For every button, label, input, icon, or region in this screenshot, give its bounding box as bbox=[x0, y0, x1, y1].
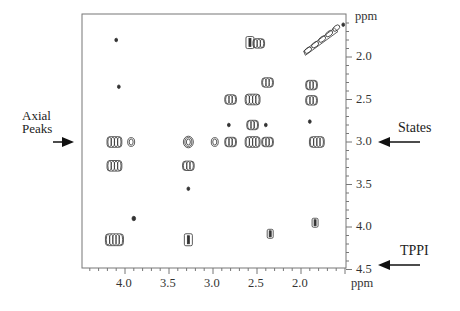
x-tick-label: 3.0 bbox=[204, 276, 220, 291]
x-tick-label: 3.5 bbox=[160, 276, 176, 291]
axis-ticks bbox=[90, 23, 352, 274]
x-tick-label: 4.0 bbox=[116, 276, 132, 291]
nmr-contour-plot bbox=[0, 0, 460, 311]
contour-peak bbox=[245, 94, 260, 105]
y-tick-label: 2.0 bbox=[356, 49, 372, 64]
y-tick-label: 3.0 bbox=[356, 134, 372, 149]
tppi-arrow bbox=[378, 260, 420, 270]
states-arrow bbox=[378, 137, 420, 147]
contour-peaks bbox=[105, 23, 344, 246]
contour-peak bbox=[267, 229, 273, 238]
contour-peak bbox=[245, 137, 260, 148]
contour-peak bbox=[184, 234, 192, 246]
contour-peak bbox=[107, 161, 122, 172]
contour-peak bbox=[187, 187, 190, 191]
axial-peaks-arrow bbox=[53, 137, 74, 147]
contour-peak bbox=[225, 137, 237, 146]
contour-peak bbox=[247, 120, 259, 129]
states-label: States bbox=[398, 121, 431, 135]
contour-peak bbox=[227, 123, 230, 127]
contour-peak bbox=[312, 218, 318, 227]
contour-peak bbox=[306, 96, 318, 105]
axial-peaks-label: Axial Peaks bbox=[22, 109, 52, 135]
contour-peak bbox=[128, 138, 135, 147]
y-tick-label: 2.5 bbox=[356, 92, 372, 107]
y-tick-label: 4.0 bbox=[356, 219, 372, 234]
contour-peak bbox=[253, 39, 265, 48]
y-tick-label: 4.5 bbox=[356, 262, 372, 277]
contour-peak bbox=[342, 23, 345, 27]
contour-peak bbox=[264, 123, 267, 127]
contour-peak bbox=[211, 138, 218, 147]
contour-peak bbox=[303, 24, 340, 56]
contour-peak bbox=[183, 161, 195, 170]
contour-peak bbox=[309, 137, 324, 148]
tppi-label: TPPI bbox=[400, 244, 429, 258]
y-tick-label: 3.5 bbox=[356, 177, 372, 192]
contour-peak bbox=[105, 234, 123, 246]
axial-peaks-label-line2: Peaks bbox=[22, 122, 52, 135]
contour-peak bbox=[107, 137, 122, 148]
x-tick-label: 2.5 bbox=[248, 276, 264, 291]
contour-peak bbox=[117, 85, 120, 89]
contour-peak bbox=[262, 137, 274, 146]
contour-peak bbox=[306, 80, 318, 89]
x-tick-label: 2.0 bbox=[292, 276, 308, 291]
contour-peak bbox=[183, 136, 193, 148]
contour-peak bbox=[132, 216, 136, 220]
contour-peak bbox=[262, 78, 274, 87]
y-axis-unit-label: ppm bbox=[355, 9, 377, 24]
x-axis-unit-label: ppm bbox=[351, 276, 373, 291]
contour-peak bbox=[115, 38, 118, 42]
contour-peak bbox=[308, 120, 311, 124]
contour-peak bbox=[225, 95, 237, 104]
